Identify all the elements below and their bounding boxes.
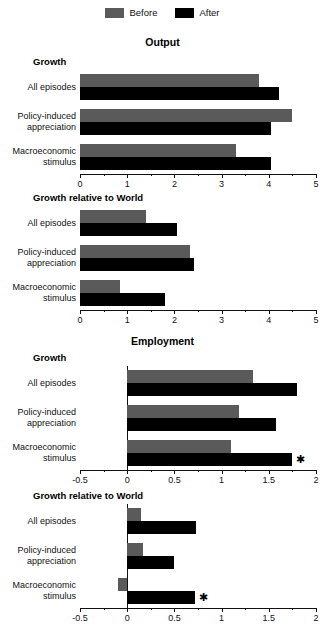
axis-tick-minor xyxy=(245,310,246,312)
bar-before xyxy=(80,109,292,122)
bar-after xyxy=(80,258,194,271)
axis-tick-major xyxy=(316,470,317,474)
bar-group: Policy-inducedappreciation xyxy=(0,405,325,431)
category-label: Macroeconomicstimulus xyxy=(0,440,76,466)
bar-before xyxy=(80,210,146,223)
axis-tick-major xyxy=(174,470,175,474)
plot-area: All episodesPolicy-inducedappreciationMa… xyxy=(0,70,325,170)
axis-tick-minor xyxy=(245,470,246,472)
category-label: All episodes xyxy=(0,508,76,534)
axis-tick-major xyxy=(222,470,223,474)
bar-after xyxy=(80,122,271,135)
axis-tick-minor xyxy=(292,608,293,610)
axis-tick-label: 0.5 xyxy=(168,475,181,485)
category-label: All episodes xyxy=(0,370,76,396)
axis-tick-major xyxy=(174,174,175,178)
axis-tick-major xyxy=(222,608,223,612)
plot-area: All episodesPolicy-inducedappreciationMa… xyxy=(0,206,325,306)
axis-tick-label: 1.5 xyxy=(263,613,276,623)
bar-before xyxy=(127,440,231,453)
chart-title-output: Output xyxy=(0,36,325,48)
bar-after xyxy=(80,223,177,236)
bar-group: Macroeconomicstimulus xyxy=(0,144,325,170)
bar-before xyxy=(118,578,127,591)
axis-tick-major xyxy=(80,470,81,474)
axis-tick-major xyxy=(269,470,270,474)
axis-tick-label: 1 xyxy=(125,179,130,189)
bar-after xyxy=(80,87,279,100)
bar-after xyxy=(127,453,292,466)
bar-after xyxy=(127,521,196,534)
bar-before xyxy=(80,74,259,87)
category-label: Macroeconomicstimulus xyxy=(0,578,76,604)
bar-after xyxy=(127,591,195,604)
bar-group: Policy-inducedappreciation xyxy=(0,109,325,135)
panel-output-growth: Growth All episodesPolicy-inducedappreci… xyxy=(0,56,325,186)
legend-label-after: After xyxy=(199,8,219,18)
bar-group: All episodes xyxy=(0,370,325,396)
axis-tick-minor xyxy=(104,310,105,312)
bar-group: Macroeconomicstimulus✱ xyxy=(0,440,325,466)
axis-tick-major xyxy=(174,608,175,612)
bar-after xyxy=(127,383,297,396)
bar-group: Macroeconomicstimulus xyxy=(0,280,325,306)
axis-tick-major xyxy=(222,310,223,314)
axis-tick-label: -0.5 xyxy=(72,613,88,623)
chart-title-employment: Employment xyxy=(0,335,325,347)
category-label: Policy-inducedappreciation xyxy=(0,109,76,135)
bar-group: Policy-inducedappreciation xyxy=(0,245,325,271)
bar-group: All episodes xyxy=(0,508,325,534)
axis-tick-label: 1.5 xyxy=(263,475,276,485)
axis-tick-major xyxy=(80,310,81,314)
panel-subtitle-growth-rel-world: Growth relative to World xyxy=(33,490,143,501)
category-label: Policy-inducedappreciation xyxy=(0,405,76,431)
axis-tick-major xyxy=(269,608,270,612)
axis-tick-minor xyxy=(292,174,293,176)
axis-tick-minor xyxy=(198,608,199,610)
category-label: All episodes xyxy=(0,74,76,100)
axis-tick-minor xyxy=(151,470,152,472)
bar-before xyxy=(127,543,143,556)
axis-tick-major xyxy=(127,174,128,178)
bar-after xyxy=(127,418,276,431)
axis-tick-minor xyxy=(104,470,105,472)
axis-tick-label: -0.5 xyxy=(72,475,88,485)
category-label: Policy-inducedappreciation xyxy=(0,543,76,569)
x-axis: -0.500.511.52 xyxy=(0,608,325,630)
plot-area: All episodesPolicy-inducedappreciationMa… xyxy=(0,504,325,604)
bar-before xyxy=(127,405,238,418)
axis-tick-label: 0 xyxy=(77,179,82,189)
plot-area: All episodesPolicy-inducedappreciationMa… xyxy=(0,366,325,466)
axis-tick-label: 4 xyxy=(266,179,271,189)
axis-tick-label: 0 xyxy=(125,475,130,485)
legend-label-before: Before xyxy=(129,8,157,18)
axis-tick-minor xyxy=(198,174,199,176)
axis-tick-minor xyxy=(151,310,152,312)
after-swatch xyxy=(175,8,194,18)
axis-tick-major xyxy=(174,310,175,314)
bar-before xyxy=(80,144,236,157)
axis-tick-major xyxy=(222,174,223,178)
category-label: Macroeconomicstimulus xyxy=(0,144,76,170)
axis-tick-minor xyxy=(245,608,246,610)
panel-employment-growth-rel-world: Growth relative to World All episodesPol… xyxy=(0,490,325,620)
bar-after xyxy=(127,556,174,569)
axis-tick-major xyxy=(80,174,81,178)
legend-entry-after: After xyxy=(175,8,219,18)
bar-after xyxy=(80,293,165,306)
axis-tick-minor xyxy=(104,174,105,176)
bar-group: All episodes xyxy=(0,210,325,236)
bar-group: All episodes xyxy=(0,74,325,100)
axis-tick-label: 0 xyxy=(77,315,82,325)
axis-tick-label: 3 xyxy=(219,179,224,189)
axis-tick-major xyxy=(316,310,317,314)
axis-tick-label: 1 xyxy=(219,475,224,485)
axis-tick-minor xyxy=(151,608,152,610)
axis-tick-label: 1 xyxy=(125,315,130,325)
panel-subtitle-growth: Growth xyxy=(33,352,66,363)
panel-output-growth-rel-world: Growth relative to World All episodesPol… xyxy=(0,192,325,322)
significance-marker: ✱ xyxy=(199,592,208,603)
axis-tick-major xyxy=(127,310,128,314)
category-label: Macroeconomicstimulus xyxy=(0,280,76,306)
axis-tick-minor xyxy=(198,310,199,312)
